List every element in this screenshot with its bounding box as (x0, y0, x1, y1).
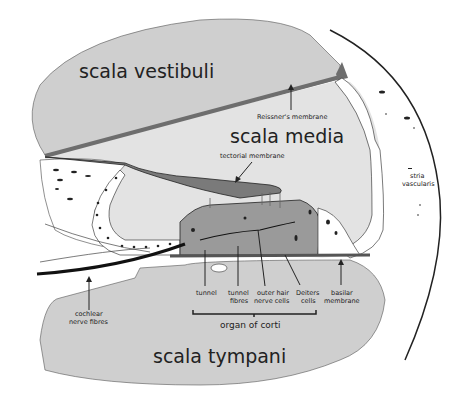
label-vascularis: vascularis (402, 180, 435, 188)
organ-of-corti-body (180, 200, 320, 255)
label-scala-tympani: scala tympani (153, 345, 286, 367)
basilar-membrane (170, 255, 370, 256)
label-scala-media: scala media (230, 125, 344, 147)
label-tunnel: tunnel (196, 289, 217, 297)
tunnel-space (211, 264, 227, 272)
label-cochlear-2: nerve fibres (69, 318, 108, 326)
label-tunnel-fibres-2: fibres (230, 297, 249, 305)
label-organ-of-corti: organ of corti (220, 320, 281, 330)
label-basilar-2: membrane (324, 297, 360, 305)
label-reissners-membrane: Reissner's membrane (257, 113, 327, 121)
cochlear-arrowhead (86, 276, 92, 282)
label-deiters-2: cells (301, 297, 316, 305)
label-basilar-1: basilar (331, 289, 353, 297)
label-deiters-1: Deiters (296, 289, 320, 297)
label-tunnel-fibres-1: tunnel (228, 289, 249, 297)
label-stria: stria (410, 172, 424, 180)
label-cochlear-1: cochlear (75, 310, 103, 318)
label-outer-hair-2: nerve cells (254, 297, 290, 305)
label-scala-vestibuli: scala vestibuli (79, 60, 214, 82)
label-outer-hair-1: outer hair (257, 289, 289, 297)
label-tectorial-membrane: tectorial membrane (220, 152, 285, 160)
cochlea-diagram: scala vestibuli scala media scala tympan… (0, 0, 461, 394)
